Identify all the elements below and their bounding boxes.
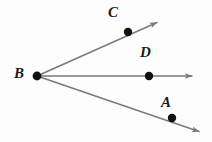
geometry-diagram: B C D A	[0, 0, 212, 142]
point-label-b: B	[14, 66, 24, 81]
point-b-dot	[33, 72, 42, 81]
rays-canvas	[0, 0, 212, 142]
point-label-d: D	[140, 45, 151, 60]
ray-bc-line	[37, 23, 157, 77]
point-d-dot	[145, 72, 153, 80]
ray-ba-line	[37, 76, 199, 132]
point-label-a: A	[161, 95, 171, 110]
point-group	[33, 28, 177, 122]
point-label-c: C	[108, 5, 118, 20]
point-c-dot	[124, 28, 132, 36]
point-a-dot	[168, 114, 176, 122]
